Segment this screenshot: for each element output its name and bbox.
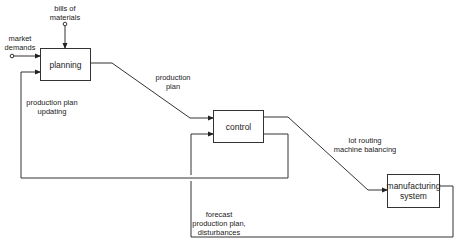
control-label: control (226, 122, 252, 132)
forecast-line2: production plan, (192, 219, 246, 228)
bills-line2: materials (44, 13, 86, 22)
mfg-label-line2: system (400, 191, 427, 201)
planning-label: planning (49, 60, 81, 70)
market-demands-label: market demands (2, 34, 38, 52)
planning-block: planning (40, 48, 91, 81)
lot-routing-label: lot routing machine balancing (330, 136, 400, 154)
forecast-label: forecast production plan, disturbances (192, 210, 246, 237)
forecast-line1: forecast (192, 210, 246, 219)
manufacturing-system-block: manufacturing system (387, 174, 440, 208)
forecast-line3: disturbances (192, 228, 246, 237)
bills-of-materials-label: bills of materials (44, 4, 86, 22)
updating-line2: updating (24, 107, 80, 116)
control-block: control (213, 110, 264, 143)
market-line1: market (2, 34, 38, 43)
bills-line1: bills of (44, 4, 86, 13)
input-terminal-icon (10, 54, 14, 58)
mfg-label-line1: manufacturing (387, 181, 441, 191)
prodplan-line2: plan (148, 82, 198, 91)
lot-line1: lot routing (330, 136, 400, 145)
production-plan-updating-label: production plan updating (24, 98, 80, 116)
market-line2: demands (2, 43, 38, 52)
lot-line2: machine balancing (330, 145, 400, 154)
prodplan-line1: production (148, 73, 198, 82)
production-plan-label: production plan (148, 73, 198, 91)
updating-line1: production plan (24, 98, 80, 107)
